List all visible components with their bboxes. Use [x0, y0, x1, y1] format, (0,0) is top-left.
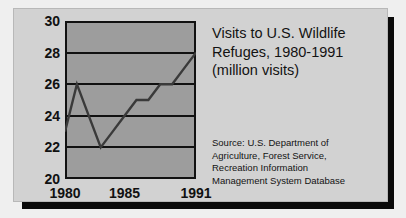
y-tick-label-20: 20 — [44, 172, 60, 186]
x-tick-label-1991: 1991 — [180, 186, 211, 200]
chart-plot-area: 202224262830 198019851991 — [65, 21, 196, 179]
card-shadow-bottom — [22, 201, 394, 209]
y-tick-label-26: 26 — [44, 77, 60, 91]
source-line-3: Recreation Information — [212, 162, 398, 175]
y-tick-label-28: 28 — [44, 46, 60, 60]
chart-card: 202224262830 198019851991 Visits to U.S.… — [13, 8, 388, 202]
chart-source-note: Source: U.S. Department of Agriculture, … — [212, 137, 398, 188]
source-line-2: Agriculture, Forest Service, — [212, 150, 398, 163]
screenshot-stage: 202224262830 198019851991 Visits to U.S.… — [0, 0, 406, 218]
series-polyline — [65, 53, 196, 148]
chart-title: Visits to U.S. Wildlife Refuges, 1980-19… — [212, 24, 392, 80]
source-line-1: Source: U.S. Department of — [212, 137, 398, 150]
data-series-line — [65, 21, 196, 179]
y-tick-label-22: 22 — [44, 140, 60, 154]
y-tick-label-24: 24 — [44, 109, 60, 123]
chart-title-line-1: Visits to U.S. Wildlife — [212, 24, 392, 43]
chart-title-line-3: (million visits) — [212, 61, 392, 80]
source-line-4: Management System Database — [212, 175, 398, 188]
chart-title-line-2: Refuges, 1980-1991 — [212, 43, 392, 62]
x-tick-label-1985: 1985 — [109, 186, 140, 200]
x-tick-label-1980: 1980 — [49, 186, 80, 200]
y-tick-label-30: 30 — [44, 14, 60, 28]
